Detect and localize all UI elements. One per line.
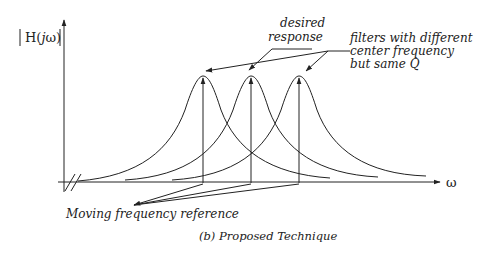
filters-label-line3: but same Q: [350, 57, 420, 71]
moving-reference-pointer: [134, 184, 299, 205]
filter-curve-1: [78, 76, 330, 181]
y-axis-label: H(jω): [20, 29, 61, 46]
filters-pointer: [206, 51, 350, 71]
filters-label-line2: center frequency: [350, 44, 454, 58]
frequency-response-diagram: H(jω) ω desired response filters with di…: [0, 0, 482, 254]
moving-reference-label: Moving frequency reference: [65, 207, 239, 221]
y-axis-label-text: H(jω): [25, 30, 61, 45]
filters-label-line1: filters with different: [349, 31, 473, 45]
desired-response-pointer: [249, 49, 312, 70]
filter-curves: [78, 76, 426, 181]
desired-response-label-line2: response: [268, 30, 323, 44]
desired-response-label-line1: desired: [280, 16, 326, 30]
x-axis-label: ω: [446, 175, 457, 190]
figure-caption: (b) Proposed Technique: [199, 229, 337, 243]
